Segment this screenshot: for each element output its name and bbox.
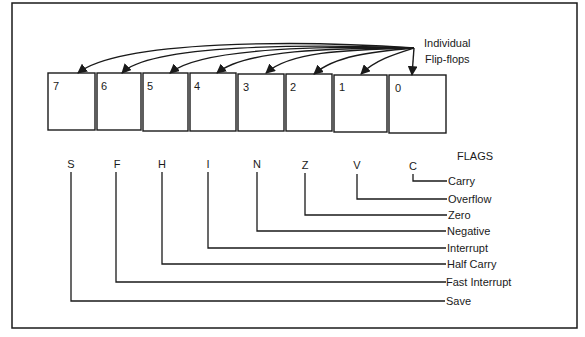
flag-name-save: Save	[446, 295, 471, 307]
bit-number-7: 7	[53, 80, 59, 92]
flag-letter-h: H	[158, 158, 166, 170]
flag-letter-f: F	[114, 158, 121, 170]
flag-name-interrupt: Interrupt	[447, 242, 488, 254]
annotation-line-1: Individual	[424, 37, 470, 49]
flag-name-carry: Carry	[448, 175, 475, 187]
bit-number-0: 0	[395, 82, 401, 94]
flag-letter-v: V	[353, 159, 361, 171]
flag-letter-i: I	[206, 158, 209, 170]
flag-name-overflow: Overflow	[448, 193, 491, 205]
flag-leader-lines	[71, 172, 447, 301]
flag-letter-z: Z	[302, 159, 309, 171]
flag-name-fast-interrupt: Fast Interrupt	[446, 276, 511, 288]
bit-number-5: 5	[147, 80, 153, 92]
bit-number-4: 4	[194, 80, 200, 92]
flag-letter-s: S	[67, 158, 74, 170]
flag-letter-c: C	[409, 160, 417, 172]
bit-number-2: 2	[290, 81, 296, 93]
annotation-line-2: Flip-flops	[425, 53, 470, 65]
flags-heading: FLAGS	[457, 150, 493, 162]
flag-name-half-carry: Half Carry	[447, 258, 497, 270]
flag-letter-n: N	[253, 158, 261, 170]
bit-number-6: 6	[101, 80, 107, 92]
flip-flop-arrows	[78, 44, 414, 75]
flag-name-negative: Negative	[447, 225, 490, 237]
flag-name-zero: Zero	[448, 209, 471, 221]
flag-register-diagram: Individual Flip-flops 7 6 5 4 3 2 1 0 FL…	[0, 0, 585, 337]
bit-number-1: 1	[339, 81, 345, 93]
bit-number-3: 3	[243, 81, 249, 93]
